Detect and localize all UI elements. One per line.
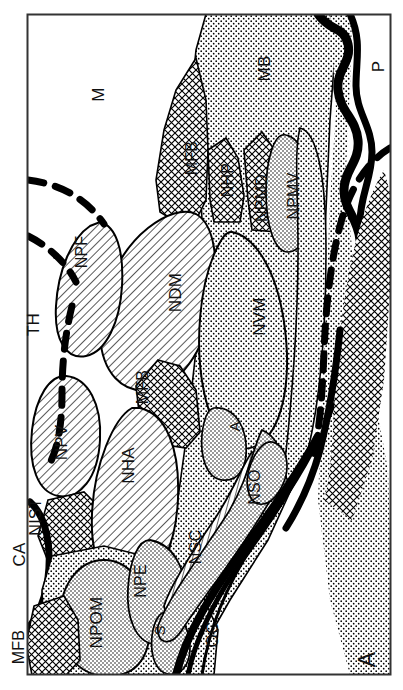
region-npv <box>31 376 100 497</box>
anatomical-figure-panel: M MB P MFB NHP NPMD NPMV NPF NDM NVM TH … <box>0 0 403 690</box>
brain-section-diagram <box>0 0 403 690</box>
vertex-dot <box>53 253 59 259</box>
